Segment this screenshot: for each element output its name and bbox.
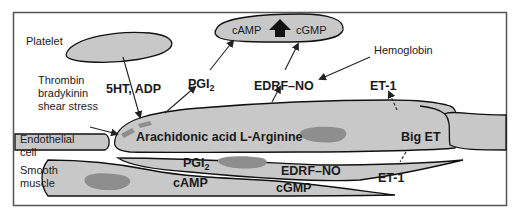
arrow-bigET-to-smooth-muscle [400, 152, 406, 162]
label-pgi2-top: PGI2 [188, 77, 215, 93]
arrow-hemoglobin-inhibits [320, 57, 370, 79]
label-edrf-no-top: EDRF–NO [254, 79, 314, 93]
endothelium-signaling-diagram: Platelet Thrombin bradykinin shear stres… [0, 0, 521, 212]
label-big-et: Big ET [401, 130, 441, 144]
label-platelet: Platelet [26, 35, 63, 47]
label-arachidonic-acid: Arachidonic acid [136, 130, 237, 144]
label-5ht-adp: 5HT, ADP [106, 82, 161, 96]
arrow-stimuli [90, 127, 117, 134]
endothelial-cell-main [115, 100, 458, 152]
label-endothelial: Endothelial [20, 133, 74, 145]
label-muscle: muscle [20, 177, 55, 189]
label-top-camp: cAMP [232, 24, 261, 36]
label-thrombin: Thrombin [38, 74, 84, 86]
arrow-edrf-to-platelet [285, 44, 298, 70]
label-shear-stress: shear stress [38, 100, 98, 112]
label-hemoglobin: Hemoglobin [374, 44, 433, 56]
label-smooth: Smooth [20, 164, 58, 176]
label-et1-top: ET-1 [370, 79, 396, 93]
endothelial-cell-right [445, 112, 506, 150]
label-bradykinin: bradykinin [38, 87, 88, 99]
platelet-cell [66, 32, 172, 62]
label-edrf-no-smooth: EDRF–NO [281, 164, 341, 178]
label-camp-smooth: cAMP [173, 176, 208, 190]
label-top-cgmp: cGMP [296, 24, 327, 36]
arrow-pgi2-to-platelet [210, 41, 233, 70]
label-et1-smooth: ET-1 [378, 171, 404, 185]
label-pgi2-smooth: PGI2 [183, 156, 210, 172]
label-cgmp-smooth: cGMP [276, 181, 311, 195]
label-l-arginine: L-Arginine [240, 130, 303, 144]
label-cell: cell [20, 146, 37, 158]
